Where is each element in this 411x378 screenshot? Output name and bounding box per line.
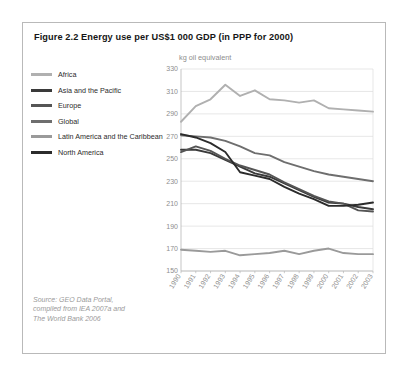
legend-swatch-icon — [31, 73, 52, 76]
x-axis-tick-label: 1995 — [242, 273, 256, 290]
legend-swatch-icon — [31, 151, 52, 154]
chart-plot-area: 1501701902102302502702903103301990199119… — [163, 63, 379, 315]
legend-swatch-icon — [31, 135, 52, 138]
x-axis-tick-label: 2000 — [315, 273, 329, 290]
legend-item-europe[interactable]: Europe — [31, 98, 161, 114]
legend-item-global[interactable]: Global — [31, 114, 161, 130]
x-axis-tick-label: 1997 — [271, 273, 285, 290]
x-axis-tick-label: 1991 — [182, 273, 196, 290]
legend-swatch-icon — [31, 120, 52, 123]
legend-swatch-icon — [31, 104, 52, 107]
series-line-africa — [181, 85, 373, 122]
x-axis-tick-label: 1996 — [256, 273, 270, 290]
series-line-north-america — [181, 134, 373, 206]
legend-item-label: Europe — [58, 101, 81, 110]
y-axis-tick-label: 270 — [166, 133, 178, 140]
legend-item-asia-and-the-pacific[interactable]: Asia and the Pacific — [31, 83, 161, 99]
y-axis-tick-label: 190 — [166, 223, 178, 230]
x-axis-tick-label: 1999 — [301, 273, 315, 290]
x-axis-tick-label: 1994 — [227, 273, 241, 290]
series-line-latin-america-and-the-caribbean — [181, 249, 373, 256]
legend-item-north-america[interactable]: North America — [31, 145, 161, 161]
y-axis-tick-label: 250 — [166, 155, 178, 162]
x-axis-tick-label: 1992 — [197, 273, 211, 290]
x-axis-tick-label: 1993 — [212, 273, 226, 290]
x-axis-tick-label: 1998 — [286, 273, 300, 290]
source-note: Source: GEO Data Portal,compiled from IE… — [33, 295, 161, 323]
page-title: Figure 2.2 Energy use per US$1 000 GDP (… — [34, 32, 293, 42]
legend-item-africa[interactable]: Africa — [31, 67, 161, 83]
figure-card: Figure 2.2 Energy use per US$1 000 GDP (… — [22, 22, 386, 354]
x-axis-tick-label: 1990 — [168, 273, 182, 290]
y-axis-tick-label: 230 — [166, 178, 178, 185]
y-axis-tick-label: 330 — [166, 65, 178, 72]
x-axis-tick-label: 2003 — [360, 273, 374, 290]
legend-item-latin-america-and-the-caribbean[interactable]: Latin America and the Caribbean — [31, 129, 161, 145]
series-line-europe — [181, 146, 373, 211]
source-note-line: Source: GEO Data Portal, — [33, 295, 161, 304]
legend-item-label: Africa — [58, 70, 76, 79]
legend-swatch-icon — [31, 89, 52, 92]
legend-item-label: Global — [58, 117, 79, 126]
y-axis-tick-label: 210 — [166, 200, 178, 207]
legend-item-label: North America — [58, 148, 104, 157]
source-note-line: compiled from IEA 2007a and — [33, 304, 161, 313]
x-axis-tick-label: 2001 — [330, 273, 344, 290]
legend-item-label: Latin America and the Caribbean — [58, 132, 163, 141]
chart-legend: AfricaAsia and the PacificEuropeGlobalLa… — [31, 67, 161, 160]
y-axis-unit-label: kg oil equivalent — [179, 53, 231, 62]
source-note-line: The World Bank 2006 — [33, 314, 161, 323]
x-axis-tick-label: 2002 — [345, 273, 359, 290]
line-chart-svg: 1501701902102302502702903103301990199119… — [163, 63, 379, 315]
y-axis-tick-label: 310 — [166, 88, 178, 95]
y-axis-tick-label: 170 — [166, 245, 178, 252]
legend-item-label: Asia and the Pacific — [58, 86, 121, 95]
y-axis-tick-label: 290 — [166, 110, 178, 117]
